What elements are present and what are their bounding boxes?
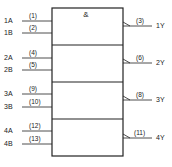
pin-label: (8) <box>136 91 144 99</box>
output-label: 1Y <box>156 22 165 29</box>
pin-label: (1) <box>29 12 37 20</box>
gate-3: 3A 3B (9) (10) (8) 3Y <box>4 85 165 110</box>
output-label: 4Y <box>156 134 165 141</box>
pin-label: (2) <box>29 24 37 32</box>
input-label: 3A <box>4 90 13 97</box>
input-label: 1A <box>4 17 13 24</box>
output-buffer-icon <box>123 59 130 63</box>
pin-label: (9) <box>29 85 37 93</box>
gate-4: 4A 4B (12) (13) (11) 4Y <box>4 122 165 147</box>
pin-label: (5) <box>29 61 37 69</box>
output-buffer-icon <box>123 134 130 138</box>
logic-diagram: & 1A 1B (1) (2) (3) 1Y 2A 2B (4) (5) (6)… <box>0 0 172 167</box>
pin-label: (12) <box>29 122 41 130</box>
pin-label: (4) <box>29 49 37 57</box>
output-buffer-icon <box>123 22 130 26</box>
input-label: 1B <box>4 29 13 36</box>
pin-label: (3) <box>136 17 144 25</box>
input-label: 2B <box>4 66 13 73</box>
and-symbol: & <box>83 10 89 19</box>
output-buffer-icon <box>123 96 130 100</box>
input-label: 4B <box>4 140 13 147</box>
input-label: 4A <box>4 127 13 134</box>
pin-label: (6) <box>136 54 144 62</box>
input-label: 3B <box>4 103 13 110</box>
gate-2: 2A 2B (4) (5) (6) 2Y <box>4 49 165 73</box>
input-label: 2A <box>4 54 13 61</box>
pin-label: (13) <box>29 135 41 143</box>
output-label: 3Y <box>156 96 165 103</box>
pin-label: (10) <box>29 98 41 106</box>
pin-label: (11) <box>134 129 145 137</box>
output-label: 2Y <box>156 59 165 66</box>
